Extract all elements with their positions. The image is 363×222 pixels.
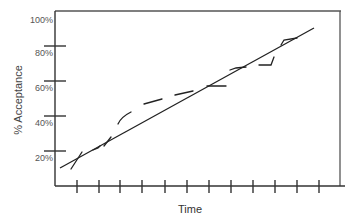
axes — [55, 11, 345, 186]
line-chart: 100% 80% 60% 40% 20% % Acceptance Time — [0, 0, 363, 222]
svg-text:60%: 60% — [35, 83, 53, 93]
svg-text:80%: 80% — [35, 48, 53, 58]
chart-canvas: 100% 80% 60% 40% 20% % Acceptance Time — [0, 0, 363, 222]
y-tick-labels: 100% 80% 60% 40% 20% — [30, 15, 53, 163]
svg-text:40%: 40% — [35, 118, 53, 128]
svg-text:100%: 100% — [30, 15, 53, 25]
x-axis-label: Time — [178, 203, 202, 215]
observed-line — [71, 38, 297, 169]
y-axis-label: % Acceptance — [12, 65, 24, 135]
svg-text:20%: 20% — [35, 153, 53, 163]
